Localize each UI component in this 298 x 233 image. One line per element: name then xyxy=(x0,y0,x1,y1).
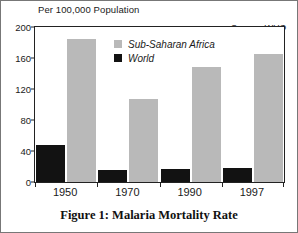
bar-world-1950 xyxy=(36,145,65,182)
legend-item-sub-saharan-africa: Sub-Saharan Africa xyxy=(114,37,215,51)
chart-legend: Sub-Saharan Africa World xyxy=(114,37,215,65)
legend-label-sub-saharan-africa: Sub-Saharan Africa xyxy=(128,39,215,50)
x-axis-tick-mark xyxy=(222,182,223,187)
y-axis-tick-label: 40 xyxy=(20,146,31,157)
bar-sub-saharan-africa-1970 xyxy=(129,99,158,182)
y-axis-tick-mark xyxy=(31,120,35,121)
y-axis-tick-label: 120 xyxy=(15,84,31,95)
figure-caption: Figure 1: Malaria Mortality Rate xyxy=(1,208,297,223)
bar-world-1970 xyxy=(98,170,127,182)
legend-swatch-icon-sub-saharan-africa xyxy=(114,40,122,48)
bar-sub-saharan-africa-1997 xyxy=(254,54,283,182)
bar-world-1990 xyxy=(161,169,190,182)
x-axis-tick-label-1950: 1950 xyxy=(53,186,77,198)
y-axis-tick-label: 200 xyxy=(15,22,31,33)
x-axis-tick-mark xyxy=(35,182,36,187)
x-axis-tick-label-1990: 1990 xyxy=(177,186,201,198)
bar-sub-saharan-africa-1990 xyxy=(192,67,221,182)
x-axis-tick-label-1970: 1970 xyxy=(115,186,139,198)
y-axis-tick-label: 0 xyxy=(26,177,31,188)
y-axis-tick-mark xyxy=(31,58,35,59)
y-axis-tick-mark xyxy=(31,27,35,28)
legend-item-world: World xyxy=(114,51,215,65)
x-axis-tick-mark xyxy=(97,182,98,187)
x-axis-tick-mark xyxy=(283,182,284,187)
legend-label-world: World xyxy=(128,53,154,64)
x-axis-tick-label-1997: 1997 xyxy=(240,186,264,198)
bar-sub-saharan-africa-1950 xyxy=(67,39,96,182)
y-axis-tick-label: 80 xyxy=(20,115,31,126)
legend-swatch-icon-world xyxy=(114,54,122,62)
axis-units-title: Per 100,000 Population xyxy=(38,4,140,15)
figure-container: Per 100,000 Population Source: WHO 04080… xyxy=(0,0,298,233)
x-axis-tick-mark xyxy=(160,182,161,187)
bar-world-1997 xyxy=(223,168,252,182)
y-axis-tick-label: 160 xyxy=(15,53,31,64)
y-axis-tick-mark xyxy=(31,89,35,90)
y-axis-tick-mark xyxy=(31,151,35,152)
